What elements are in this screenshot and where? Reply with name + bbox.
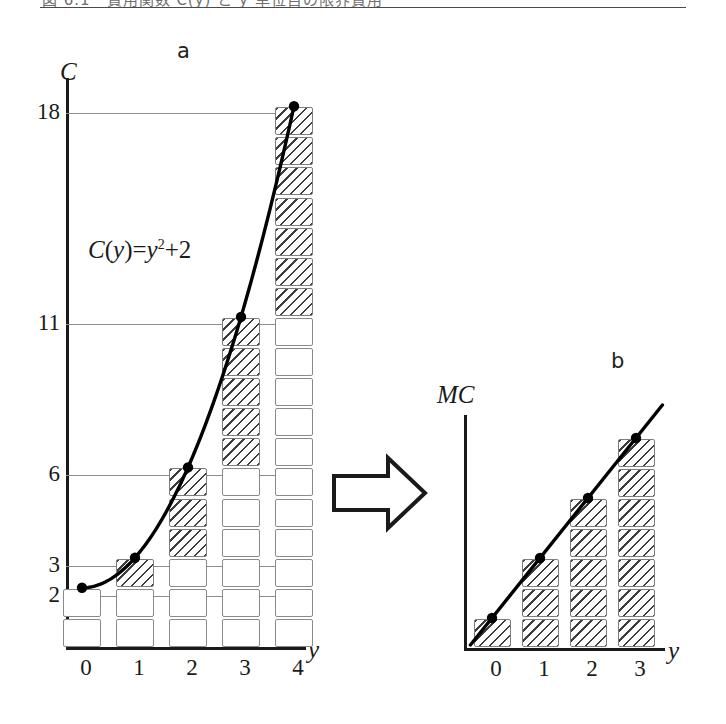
cell-b-col3-hatched bbox=[618, 469, 655, 497]
cell-a-col4-plain bbox=[275, 619, 313, 647]
xtick-label-b-1: 1 bbox=[529, 656, 559, 682]
cell-a-col3-plain bbox=[222, 619, 260, 647]
cell-b-col3-hatched bbox=[618, 559, 655, 587]
xtick-label-b-0: 0 bbox=[481, 656, 511, 682]
cell-b-col1-hatched bbox=[522, 619, 559, 647]
cell-a-col4-plain bbox=[275, 318, 313, 346]
cell-b-col3-hatched bbox=[618, 439, 655, 467]
panel-a-label: a bbox=[177, 39, 190, 63]
panel-a-y-axis-label: C bbox=[60, 58, 77, 86]
ytick-label-6: 6 bbox=[22, 461, 60, 487]
cell-a-col3-hatched bbox=[222, 408, 260, 436]
panel-a-x-axis bbox=[66, 647, 306, 650]
cell-b-col3-hatched bbox=[618, 589, 655, 617]
xtick-label-a-1: 1 bbox=[124, 655, 154, 681]
gridline-18 bbox=[66, 113, 286, 114]
cell-b-col2-hatched bbox=[570, 499, 607, 527]
cell-a-col4-plain bbox=[275, 468, 313, 496]
cell-a-col4-plain bbox=[275, 589, 313, 617]
cell-a-col4-plain bbox=[275, 499, 313, 527]
cell-a-col3-hatched bbox=[222, 348, 260, 376]
ytick-label-18: 18 bbox=[22, 99, 60, 125]
cell-a-col2-plain bbox=[169, 589, 207, 617]
cost-function-formula: C(y)=y2+2 bbox=[88, 236, 191, 264]
right-arrow-icon bbox=[332, 448, 428, 544]
xtick-label-a-3: 3 bbox=[230, 655, 260, 681]
cell-a-col4-plain bbox=[275, 348, 313, 376]
xtick-label-a-4: 4 bbox=[283, 655, 313, 681]
cell-b-col3-hatched bbox=[618, 499, 655, 527]
cell-a-col3-hatched bbox=[222, 378, 260, 406]
cell-a-col2-plain bbox=[169, 619, 207, 647]
panel-b-label: b bbox=[611, 349, 624, 373]
cell-a-col1-hatched bbox=[116, 559, 154, 587]
cell-b-col1-hatched bbox=[522, 589, 559, 617]
cell-a-col0-plain bbox=[63, 589, 101, 617]
cell-a-col3-plain bbox=[222, 529, 260, 557]
cell-b-col3-hatched bbox=[618, 529, 655, 557]
cell-a-col4-hatched bbox=[275, 258, 313, 286]
panel-b-y-axis bbox=[464, 415, 467, 651]
cell-a-col4-plain bbox=[275, 438, 313, 466]
cell-a-col4-hatched bbox=[275, 228, 313, 256]
cell-a-col3-plain bbox=[222, 468, 260, 496]
panel-b-x-axis bbox=[464, 648, 665, 651]
cell-b-col2-hatched bbox=[570, 589, 607, 617]
ytick-label-3: 3 bbox=[22, 552, 60, 578]
cell-a-col2-hatched bbox=[169, 529, 207, 557]
cell-a-col4-plain bbox=[275, 378, 313, 406]
ytick-label-2: 2 bbox=[22, 582, 60, 608]
cell-a-col0-plain bbox=[63, 619, 101, 647]
cell-a-col4-plain bbox=[275, 408, 313, 436]
cell-a-col2-hatched bbox=[169, 499, 207, 527]
ytick-label-11: 11 bbox=[22, 310, 60, 336]
cell-a-col3-hatched bbox=[222, 438, 260, 466]
cell-a-col4-plain bbox=[275, 559, 313, 587]
cell-b-col3-hatched bbox=[618, 619, 655, 647]
xtick-label-a-0: 0 bbox=[71, 655, 101, 681]
cell-b-col0-hatched bbox=[474, 619, 511, 647]
cell-b-col1-hatched bbox=[522, 559, 559, 587]
cell-a-col1-plain bbox=[116, 589, 154, 617]
xtick-label-a-2: 2 bbox=[177, 655, 207, 681]
cell-a-col1-plain bbox=[116, 619, 154, 647]
cell-b-col2-hatched bbox=[570, 529, 607, 557]
cell-a-col2-plain bbox=[169, 559, 207, 587]
cell-a-col4-hatched bbox=[275, 198, 313, 226]
cell-a-col4-hatched bbox=[275, 167, 313, 195]
xtick-label-b-2: 2 bbox=[577, 656, 607, 682]
cell-a-col3-hatched bbox=[222, 318, 260, 346]
cell-a-col2-hatched bbox=[169, 468, 207, 496]
xtick-label-b-3: 3 bbox=[625, 656, 655, 682]
cell-a-col3-plain bbox=[222, 589, 260, 617]
cell-a-col4-plain bbox=[275, 529, 313, 557]
cell-a-col4-hatched bbox=[275, 137, 313, 165]
caption-horizontal-rule bbox=[40, 7, 686, 8]
panel-b-x-axis-label: y bbox=[668, 637, 679, 665]
cell-b-col2-hatched bbox=[570, 619, 607, 647]
cell-a-col3-plain bbox=[222, 559, 260, 587]
panel-b-y-axis-label: MC bbox=[437, 381, 475, 409]
panel-a-y-axis bbox=[66, 78, 69, 650]
cell-a-col3-plain bbox=[222, 499, 260, 527]
cell-a-col4-hatched bbox=[275, 288, 313, 316]
cell-b-col2-hatched bbox=[570, 559, 607, 587]
cell-a-col4-hatched bbox=[275, 107, 313, 135]
